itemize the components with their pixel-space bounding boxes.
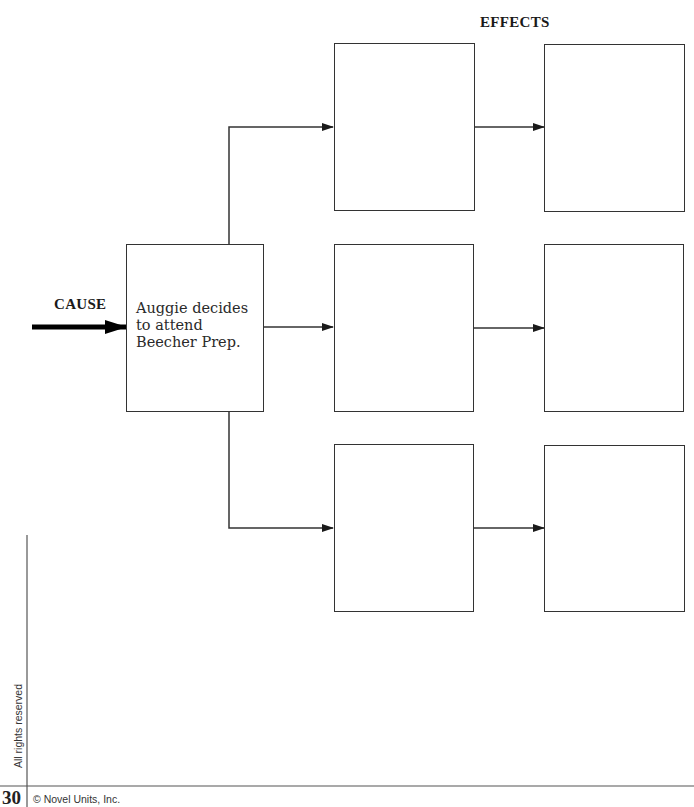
cause-heading: CAUSE: [54, 296, 106, 313]
effect-box-row1-col2[interactable]: [544, 44, 685, 212]
cause-text: Auggie decides to attend Beecher Prep.: [136, 300, 261, 351]
effect-box-row2-col1[interactable]: [334, 244, 474, 412]
page-number: 30: [2, 787, 21, 807]
effect-box-row3-col1[interactable]: [334, 444, 474, 612]
cause-box: Auggie decides to attend Beecher Prep.: [126, 244, 264, 412]
effects-heading: EFFECTS: [480, 14, 550, 31]
effect-box-row1-col1[interactable]: [334, 43, 475, 211]
effect-box-row2-col2[interactable]: [544, 244, 684, 412]
copyright-text: © Novel Units, Inc.: [33, 793, 120, 805]
effect-box-row3-col2[interactable]: [544, 445, 685, 612]
rights-note: All rights reserved: [12, 676, 24, 776]
